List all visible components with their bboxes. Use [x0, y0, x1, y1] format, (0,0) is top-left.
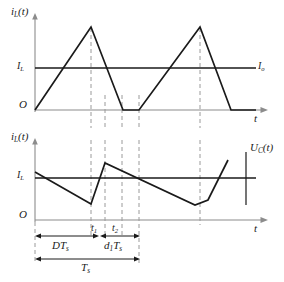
bottom-capacitor-voltage-label: UC(t) — [250, 142, 273, 153]
bottom-origin-label: O — [19, 209, 27, 220]
d1ts-label: d1Ts — [104, 240, 122, 251]
dts-arrow-right — [93, 234, 99, 239]
top-x-axis-label: t — [254, 113, 257, 124]
waveform-canvas — [0, 0, 284, 282]
bottom-capacitor-voltage-waveform — [35, 160, 228, 205]
top-x-axis-arrowhead — [261, 107, 269, 113]
bottom-y-axis-arrowhead — [32, 138, 38, 145]
bottom-average-current-label: IL — [17, 170, 24, 180]
dts-arrow-left — [35, 234, 41, 239]
top-y-axis-arrowhead — [32, 13, 38, 20]
top-average-current-label: IL — [17, 61, 24, 71]
top-output-current-label: Io — [258, 61, 265, 71]
t2-label: t2 — [112, 223, 118, 233]
ts-label: Ts — [81, 262, 90, 273]
bottom-y-axis-label: iL(t) — [11, 131, 29, 142]
waveform-figure: iL(t) IL Io O t iL(t) IL UC(t) O t t1 t2… — [0, 0, 284, 282]
top-y-axis-label: iL(t) — [11, 6, 29, 17]
d1ts-arrow-left — [100, 234, 106, 239]
bottom-x-axis-label: t — [254, 223, 257, 234]
top-origin-label: O — [19, 99, 27, 110]
bottom-x-axis-arrowhead — [261, 217, 269, 223]
top-plot-group — [32, 13, 268, 128]
ts-arrow-left — [35, 257, 41, 262]
t1-label: t1 — [91, 223, 97, 233]
dts-label: DTs — [52, 240, 69, 251]
interval-dimension-arrows — [35, 234, 140, 262]
